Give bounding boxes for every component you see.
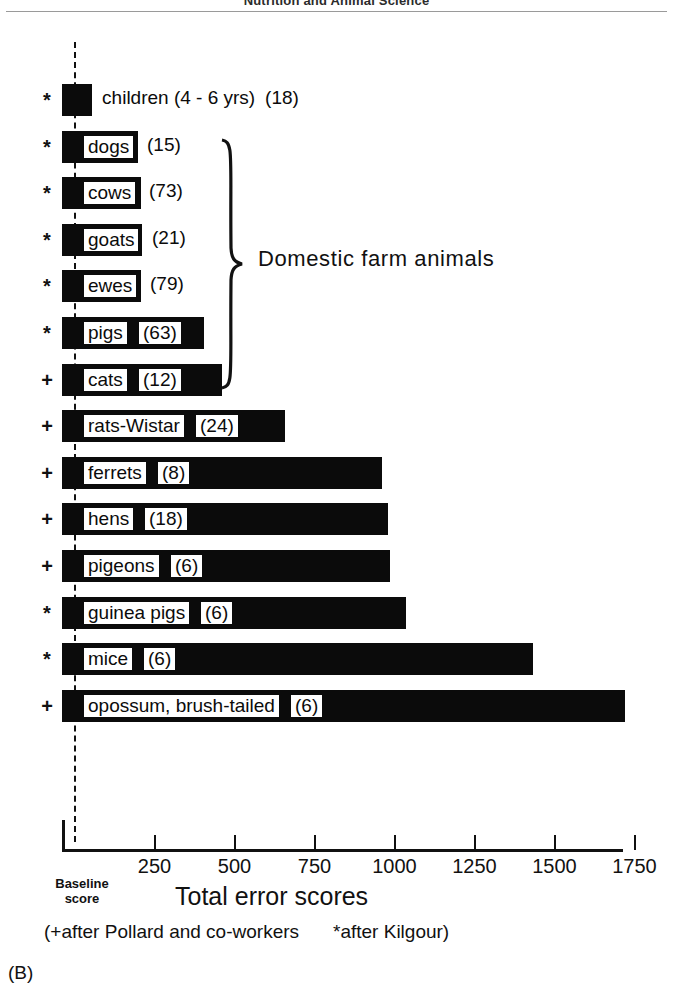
bar-label-chip: goats [82, 227, 140, 253]
bar-row: +cats(12) [0, 364, 673, 396]
sample-size-chip: (6) [289, 693, 324, 719]
sample-size-chip: (6) [199, 600, 234, 626]
x-axis-line [62, 849, 623, 852]
chart-footnote: (+after Pollard and co-workers*after Kil… [44, 921, 449, 943]
footnote-kilgour: *after Kilgour) [333, 921, 449, 942]
x-tick-1750 [634, 835, 636, 850]
bar-row: *ewes(79) [0, 270, 673, 302]
bar-label-chip: pigs [82, 320, 129, 346]
x-tick-1000 [394, 835, 396, 850]
source-marker: + [38, 410, 56, 442]
bar-label-chip: dogs [82, 134, 135, 160]
panel-letter: (B) [8, 962, 33, 984]
x-tick-750 [314, 835, 316, 850]
x-tick-label-1000: 1000 [355, 855, 435, 878]
axis-left-cap [62, 820, 65, 852]
group-label-domestic-farm-animals: Domestic farm animals [258, 246, 494, 272]
bar [62, 84, 92, 116]
source-marker: * [38, 84, 56, 116]
bar-label-chip: children (4 - 6 yrs) [98, 87, 259, 113]
bar-row: +opossum, brush-tailed(6) [0, 690, 673, 722]
bar-row: *guinea pigs(6) [0, 597, 673, 629]
bar-label-chip: cats [82, 367, 129, 393]
bar-row: *cows(73) [0, 177, 673, 209]
source-marker: * [38, 597, 56, 629]
bar-label-chip: ewes [82, 273, 138, 299]
x-tick-label-500: 500 [195, 855, 275, 878]
x-tick-label-750: 750 [275, 855, 355, 878]
baseline-score-caption: Baseline score [36, 876, 128, 906]
sample-size-chip: (79) [146, 273, 188, 299]
x-tick-label-250: 250 [115, 855, 195, 878]
group-bracket-icon [218, 138, 244, 390]
source-marker: * [38, 643, 56, 675]
source-marker: * [38, 177, 56, 209]
bar-row: *mice(6) [0, 643, 673, 675]
bar-row: *children (4 - 6 yrs)(18) [0, 84, 673, 116]
baseline-caption-line2: score [65, 891, 100, 906]
bar-label-chip: pigeons [82, 553, 161, 579]
x-tick-label-1250: 1250 [435, 855, 515, 878]
sample-size-chip: (15) [143, 134, 185, 160]
x-tick-1250 [474, 835, 476, 850]
sample-size-chip: (6) [142, 646, 177, 672]
x-tick-1500 [554, 835, 556, 850]
source-marker: + [38, 364, 56, 396]
bar-row: +hens(18) [0, 503, 673, 535]
x-tick-250 [154, 835, 156, 850]
sample-size-chip: (24) [194, 413, 240, 439]
bar-label-chip: hens [82, 506, 135, 532]
bar-label-chip: guinea pigs [82, 600, 191, 626]
source-marker: + [38, 457, 56, 489]
sample-size-chip: (73) [145, 180, 187, 206]
source-marker: + [38, 550, 56, 582]
source-marker: * [38, 317, 56, 349]
bar-row: +ferrets(8) [0, 457, 673, 489]
x-tick-500 [234, 835, 236, 850]
sample-size-chip: (18) [143, 506, 189, 532]
bar-label-chip: rats-Wistar [82, 413, 186, 439]
sample-size-chip: (21) [148, 227, 190, 253]
sample-size-chip: (12) [137, 367, 183, 393]
source-marker: * [38, 270, 56, 302]
bar-label-chip: mice [82, 646, 134, 672]
bar-label-chip: opossum, brush-tailed [82, 693, 281, 719]
bar-row: +rats-Wistar(24) [0, 410, 673, 442]
source-marker: * [38, 131, 56, 163]
source-marker: + [38, 690, 56, 722]
bar-row: *pigs(63) [0, 317, 673, 349]
footnote-pollard: (+after Pollard and co-workers [44, 921, 299, 942]
bar-row: *dogs(15) [0, 131, 673, 163]
bar-chart: *children (4 - 6 yrs)(18)*dogs(15)*cows(… [0, 0, 673, 1005]
sample-size-chip: (63) [137, 320, 183, 346]
baseline-caption-line1: Baseline [55, 876, 108, 891]
bar-label-chip: cows [82, 180, 137, 206]
sample-size-chip: (8) [156, 460, 191, 486]
x-tick-label-1500: 1500 [515, 855, 595, 878]
bar-label-chip: ferrets [82, 460, 148, 486]
bar-row: +pigeons(6) [0, 550, 673, 582]
x-tick-label-1750: 1750 [595, 855, 673, 878]
x-axis-label: Total error scores [175, 882, 368, 911]
sample-size-chip: (18) [261, 87, 303, 113]
sample-size-chip: (6) [169, 553, 204, 579]
source-marker: * [38, 224, 56, 256]
source-marker: + [38, 503, 56, 535]
